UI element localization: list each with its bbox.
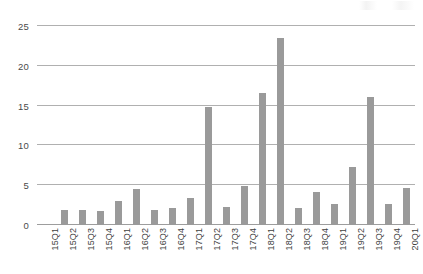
bar (367, 97, 374, 225)
x-tick-label: 19Q4 (392, 228, 402, 250)
bar (61, 210, 68, 225)
x-tick-label: 18Q1 (266, 228, 276, 250)
x-tick-label: 18Q4 (320, 228, 330, 250)
x-tick-label: 15Q1 (50, 228, 60, 250)
bar (133, 189, 140, 225)
x-tick-label: 15Q4 (104, 228, 114, 250)
x-tick-label: 17Q3 (230, 228, 240, 250)
y-tick-label: 5 (24, 180, 29, 191)
bar (205, 107, 212, 225)
bar (403, 188, 410, 225)
bar (349, 167, 356, 225)
x-tick-label: 19Q1 (338, 228, 348, 250)
bar (241, 186, 248, 225)
y-axis: 0510152025 (0, 0, 37, 274)
bar (331, 204, 338, 225)
x-tick-label: 18Q2 (284, 228, 294, 250)
x-tick-label: 15Q2 (68, 228, 78, 250)
x-tick-label: 19Q3 (374, 228, 384, 250)
bar (259, 93, 266, 225)
bar-series (37, 26, 415, 225)
y-tick-label: 0 (24, 220, 29, 231)
bar (295, 208, 302, 225)
bar (151, 210, 158, 225)
x-axis: 15Q115Q215Q315Q416Q116Q216Q316Q417Q117Q2… (37, 226, 415, 274)
bar (79, 210, 86, 225)
x-tick-label: 17Q1 (194, 228, 204, 250)
bar (169, 208, 176, 225)
y-tick-label: 10 (18, 140, 29, 151)
x-tick-label: 17Q2 (212, 228, 222, 250)
bar (115, 201, 122, 225)
bar (223, 207, 230, 225)
y-tick-label: 15 (18, 100, 29, 111)
x-tick-label: 16Q1 (122, 228, 132, 250)
x-tick-label: 19Q2 (356, 228, 366, 250)
x-tick-label: 18Q3 (302, 228, 312, 250)
y-tick-label: 20 (18, 60, 29, 71)
bar (97, 211, 104, 225)
x-tick-label: 16Q3 (158, 228, 168, 250)
bar-chart-figure: 0510152025 15Q115Q215Q315Q416Q116Q216Q31… (0, 0, 423, 274)
x-tick-label: 17Q4 (248, 228, 258, 250)
bar (385, 204, 392, 225)
x-tick-label: 16Q2 (140, 228, 150, 250)
scan-artifact (359, 1, 419, 10)
x-tick-label: 15Q3 (86, 228, 96, 250)
x-tick-label: 20Q1 (410, 228, 420, 250)
bar (187, 198, 194, 225)
x-tick-label: 16Q4 (176, 228, 186, 250)
y-tick-label: 25 (18, 21, 29, 32)
bar (277, 38, 284, 225)
bar (313, 192, 320, 225)
